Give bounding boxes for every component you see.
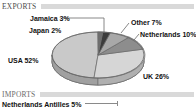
- exports-title: EXPORTS: [0, 2, 36, 11]
- label-jamaica: Jamaica 3%: [30, 15, 70, 23]
- label-usa: USA 52%: [8, 57, 38, 65]
- label-netherlands-antilles: Netherlands Antilles 5%: [0, 101, 82, 108]
- header-rule: [40, 92, 194, 97]
- header-rule: [41, 4, 194, 9]
- label-other: Other 7%: [131, 19, 162, 27]
- exports-imports-pie-panel: EXPORTS: [0, 0, 196, 110]
- imports-first-label-row: Netherlands Antilles 5%: [0, 99, 118, 110]
- netherlands-leader-line: [134, 34, 139, 40]
- label-japan: Japan 2%: [29, 27, 61, 35]
- netherlands-antilles-leader-line: [85, 103, 118, 104]
- imports-title: IMPORTS: [0, 90, 35, 99]
- label-netherlands: Netherlands 10%: [140, 31, 196, 39]
- other-leader-line: [121, 23, 129, 33]
- label-uk: UK 26%: [143, 73, 169, 81]
- pie-top: [52, 32, 145, 78]
